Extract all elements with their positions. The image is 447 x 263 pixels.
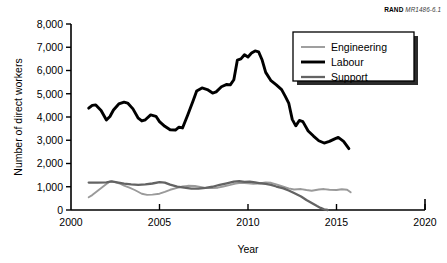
y-axis-tick-label: 2,000 bbox=[37, 157, 63, 169]
x-axis-tick-label: 2005 bbox=[148, 216, 172, 228]
y-axis-tick-labels: 01,0002,0003,0004,0005,0006,0007,0008,00… bbox=[37, 18, 63, 216]
y-axis-title: Number of direct workers bbox=[12, 58, 24, 175]
x-axis-tick-label: 2015 bbox=[325, 216, 349, 228]
x-axis-ticks bbox=[160, 204, 426, 210]
y-axis-tick-label: 6,000 bbox=[37, 64, 63, 76]
rand-report-number: MR1486-6.1 bbox=[405, 6, 441, 13]
legend-label-support: Support bbox=[331, 71, 368, 83]
chart-legend: EngineeringLabourSupport bbox=[293, 32, 418, 85]
chart-figure: RAND MR1486-6.1 01,0002,0003,0004,0005,0… bbox=[0, 0, 447, 263]
y-axis-tick-label: 3,000 bbox=[37, 134, 63, 146]
line-chart-svg: 01,0002,0003,0004,0005,0006,0007,0008,00… bbox=[0, 0, 447, 263]
y-axis-tick-label: 7,000 bbox=[37, 41, 63, 53]
legend-label-engineering: Engineering bbox=[331, 41, 387, 53]
y-axis-tick-label: 0 bbox=[57, 204, 63, 216]
y-axis-tick-label: 8,000 bbox=[37, 18, 63, 30]
x-axis-tick-labels: 20002005201020152020 bbox=[59, 216, 437, 228]
legend-label-labour: Labour bbox=[331, 56, 364, 68]
x-axis-title: Year bbox=[237, 243, 259, 255]
y-axis-tick-label: 4,000 bbox=[37, 111, 63, 123]
y-axis-tick-label: 5,000 bbox=[37, 88, 63, 100]
x-axis-tick-label: 2020 bbox=[413, 216, 437, 228]
rand-logo-text: RAND bbox=[384, 6, 403, 13]
x-axis-tick-label: 2000 bbox=[59, 216, 83, 228]
x-axis-tick-label: 2010 bbox=[236, 216, 260, 228]
y-axis-tick-label: 1,000 bbox=[37, 181, 63, 193]
rand-source-tag: RAND MR1486-6.1 bbox=[384, 7, 441, 14]
